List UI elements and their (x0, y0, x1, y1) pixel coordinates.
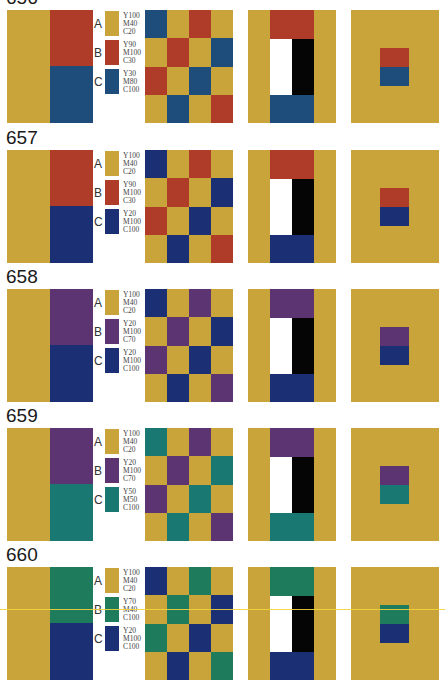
color-swatch-b (105, 458, 119, 483)
small-square-bottom (380, 207, 409, 226)
checker-cell (145, 38, 167, 67)
checker-cell (145, 235, 167, 263)
cmyk-label: Y20 M100 C70 (123, 459, 141, 483)
checker-cell (189, 652, 211, 680)
checker-cell (167, 567, 189, 595)
checker-cell (167, 207, 189, 235)
swatch-letter-b: B (94, 325, 102, 339)
checker-cell (189, 150, 211, 178)
panel3-top-block (270, 289, 314, 318)
checker-cell (167, 178, 189, 207)
color-swatch-b (105, 319, 119, 344)
white-block (270, 39, 292, 95)
white-block (270, 318, 292, 374)
plate-number: 658 (6, 267, 38, 286)
checker-cell (145, 567, 167, 595)
black-block (292, 457, 314, 513)
swatch-letter-c: C (94, 493, 103, 507)
cmyk-label: Y100 M40 C20 (123, 430, 140, 454)
plate-657: 657AY100 M40 C20BY90 M100 C30CY20 M100 C… (0, 124, 445, 263)
checker-cell (145, 513, 167, 541)
color-swatch-a (105, 429, 119, 454)
swatch-letter-a: A (94, 296, 102, 310)
checker-cell (211, 67, 233, 95)
small-square-bottom (380, 346, 409, 365)
checker-cell (167, 235, 189, 263)
checker-cell (189, 317, 211, 346)
small-square-top (380, 188, 409, 207)
cmyk-label: Y100 M40 C20 (123, 291, 140, 315)
panel3-top-block (270, 10, 314, 39)
panel3-bottom-block (270, 513, 314, 541)
checker-cell (145, 207, 167, 235)
checker-cell (167, 289, 189, 317)
checker-cell (189, 567, 211, 595)
panel-small-square (351, 150, 439, 263)
panel3-top-block (270, 567, 314, 596)
checker-cell (167, 456, 189, 485)
panel-split-top-block (50, 10, 93, 66)
cmyk-label: Y20 M100 C70 (123, 320, 141, 344)
color-swatch-a (105, 290, 119, 315)
panel-split-top-block (50, 289, 93, 345)
checker-cell (189, 38, 211, 67)
checker-cell (167, 428, 189, 456)
checker-cell (145, 289, 167, 317)
checker-cell (167, 624, 189, 652)
panel-split (7, 289, 93, 402)
checker-cell (211, 567, 233, 595)
plate-656: 656AY100 M40 C20BY90 M100 C30CY30 M80 C1… (0, 0, 445, 123)
checker-cell (189, 428, 211, 456)
checker-cell (211, 428, 233, 456)
checker-cell (189, 513, 211, 541)
checker-cell (145, 346, 167, 374)
checker-cell (145, 67, 167, 95)
plate-659: 659AY100 M40 C20BY20 M100 C70CY50 M50 C1… (0, 402, 445, 541)
small-square-bottom (380, 67, 409, 86)
panel-split (7, 10, 93, 123)
color-swatch-c (105, 69, 119, 94)
checker-cell (167, 346, 189, 374)
plate-number: 656 (6, 0, 38, 7)
cmyk-label: Y90 M100 C30 (123, 41, 141, 65)
checker-cell (189, 95, 211, 123)
swatch-letter-a: A (94, 17, 102, 31)
checker-cell (189, 178, 211, 207)
panel-checkerboard (145, 150, 233, 263)
checker-cell (167, 67, 189, 95)
checker-cell (145, 178, 167, 207)
panel-split (7, 428, 93, 541)
checker-cell (167, 374, 189, 402)
checker-cell (167, 485, 189, 513)
checker-cell (189, 485, 211, 513)
black-block (292, 179, 314, 235)
swatch-letter-a: A (94, 574, 102, 588)
checker-cell (167, 652, 189, 680)
checker-cell (211, 317, 233, 346)
swatch-letter-c: C (94, 215, 103, 229)
black-block (292, 318, 314, 374)
cmyk-label: Y70 M40 C100 (123, 598, 139, 622)
plate-number: 659 (6, 406, 38, 425)
cmyk-label: Y90 M100 C30 (123, 181, 141, 205)
checker-cell (211, 456, 233, 485)
checker-cell (167, 513, 189, 541)
panel-checkerboard (145, 289, 233, 402)
checker-cell (211, 38, 233, 67)
checker-cell (211, 235, 233, 263)
checker-cell (211, 652, 233, 680)
checker-cell (145, 10, 167, 38)
checker-cell (211, 624, 233, 652)
color-swatch-c (105, 348, 119, 373)
panel-checkerboard (145, 428, 233, 541)
panel-split-bottom-block (50, 206, 93, 263)
panel-split (7, 150, 93, 263)
checker-cell (189, 346, 211, 374)
panel-split-bottom-block (50, 345, 93, 402)
swatch-letter-c: C (94, 354, 103, 368)
swatch-letter-c: C (94, 75, 103, 89)
panel-split-bottom-block (50, 623, 93, 680)
panel-white-black (248, 150, 336, 263)
white-block (270, 179, 292, 235)
black-block (292, 596, 314, 652)
